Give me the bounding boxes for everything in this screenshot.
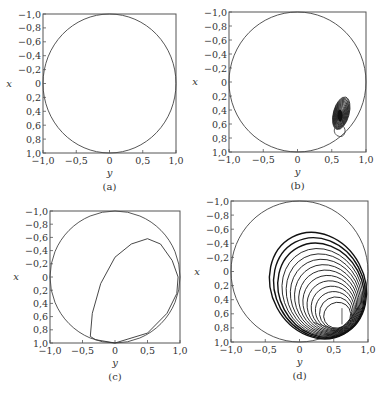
y-axis-label: x	[192, 76, 198, 87]
plot-frame	[231, 201, 368, 342]
panel-b: −1,0−0,8−0,6−0,4−0,200,20,40,60,81,0−1,0…	[192, 7, 373, 192]
x-tick-label: 0,5	[135, 155, 150, 166]
y-tick-label: −1,0	[25, 206, 48, 217]
x-axis-label: y	[294, 166, 301, 177]
panel-caption: (d)	[292, 370, 306, 381]
y-tick-label: −0,4	[204, 49, 227, 60]
x-tick-label: −0,5	[65, 155, 88, 166]
y-tick-label: −0,6	[18, 36, 41, 47]
x-tick-label: 0,5	[140, 345, 155, 356]
unit-circle	[43, 14, 176, 153]
x-axis-label: y	[111, 357, 118, 368]
unit-circle	[50, 211, 180, 343]
limit-cycle	[90, 239, 178, 343]
y-tick-label: 0,8	[33, 324, 48, 335]
plot-frame	[50, 211, 180, 343]
panel-d: −1,0−0,8−0,6−0,4−0,200,20,40,60,81,0−1,0…	[194, 196, 385, 382]
y-tick-label: −0,4	[18, 50, 41, 61]
y-tick-label: −1,0	[206, 196, 229, 207]
y-tick-label: 0	[35, 78, 41, 89]
y-axis-label: x	[6, 78, 12, 89]
y-tick-label: 0,6	[26, 120, 41, 131]
y-tick-label: −0,8	[25, 219, 48, 230]
panel-caption: (a)	[103, 181, 117, 192]
x-tick-label: 0,5	[324, 154, 339, 165]
y-tick-label: −1,0	[204, 7, 227, 18]
plot-frame	[43, 14, 176, 153]
y-tick-label: 0,6	[33, 311, 48, 322]
x-tick-label: −1,0	[217, 154, 240, 165]
figure: −1,0−0,8−0,6−0,4−0,200,20,40,60,81,0−1,0…	[0, 0, 389, 395]
x-tick-label: 1,0	[358, 154, 373, 165]
trajectory-core	[337, 110, 342, 122]
figure-canvas: −1,0−0,8−0,6−0,4−0,200,20,40,60,81,0−1,0…	[0, 0, 389, 395]
y-tick-label: 0,8	[26, 134, 41, 145]
y-tick-label: −0,8	[204, 21, 227, 32]
x-tick-label: 0	[296, 344, 302, 355]
y-tick-label: 0,4	[33, 298, 48, 309]
y-tick-label: −0,2	[18, 64, 41, 75]
y-tick-label: −1,0	[18, 9, 41, 20]
y-axis-label: x	[194, 266, 200, 277]
y-tick-label: 0,4	[212, 105, 227, 116]
x-tick-label: 0	[112, 345, 118, 356]
x-axis-label: y	[106, 167, 113, 178]
y-tick-label: −0,6	[204, 35, 227, 46]
x-tick-label: −1,0	[219, 344, 242, 355]
y-tick-label: 0,4	[214, 294, 229, 305]
y-tick-label: −0,6	[206, 224, 229, 235]
y-tick-label: 0,2	[26, 92, 41, 103]
y-tick-label: 0,8	[212, 133, 227, 144]
x-tick-label: 0,5	[326, 344, 341, 355]
y-tick-label: 0,2	[33, 285, 48, 296]
y-tick-label: 0	[42, 272, 48, 283]
x-tick-label: 1,0	[360, 344, 375, 355]
y-tick-label: 0,4	[26, 106, 41, 117]
x-tick-label: −1,0	[38, 345, 61, 356]
x-tick-label: −0,5	[254, 344, 277, 355]
y-tick-label: −0,2	[204, 63, 227, 74]
panel-a: −1,0−0,8−0,6−0,4−0,200,20,40,60,81,0−1,0…	[6, 9, 183, 193]
x-tick-label: 0	[294, 154, 300, 165]
y-tick-label: −0,8	[206, 210, 229, 221]
x-tick-label: −0,5	[71, 345, 94, 356]
y-tick-label: 0,2	[214, 280, 229, 291]
y-tick-label: 0,6	[214, 308, 229, 319]
y-tick-label: −0,8	[18, 22, 41, 33]
y-tick-label: −0,6	[25, 232, 48, 243]
x-axis-label: y	[296, 356, 303, 367]
y-tick-label: −0,2	[25, 258, 48, 269]
panel-caption: (b)	[290, 180, 304, 191]
y-tick-label: −0,4	[206, 238, 229, 249]
y-tick-label: 0,2	[212, 91, 227, 102]
y-tick-label: −0,4	[25, 245, 48, 256]
x-tick-label: 1,0	[172, 345, 187, 356]
y-tick-label: −0,2	[206, 252, 229, 263]
panel-caption: (c)	[108, 371, 122, 382]
panel-c: −1,0−0,8−0,6−0,4−0,200,20,40,60,81,0−1,0…	[13, 206, 187, 383]
y-tick-label: 0	[223, 266, 229, 277]
y-tick-label: 0	[221, 77, 227, 88]
y-axis-label: x	[13, 271, 19, 282]
y-tick-label: 0,8	[214, 322, 229, 333]
x-tick-label: −0,5	[252, 154, 275, 165]
x-tick-label: 1,0	[168, 155, 183, 166]
x-tick-label: −1,0	[31, 155, 54, 166]
unit-circle	[231, 201, 368, 342]
y-tick-label: 0,6	[212, 119, 227, 130]
x-tick-label: 0	[106, 155, 112, 166]
